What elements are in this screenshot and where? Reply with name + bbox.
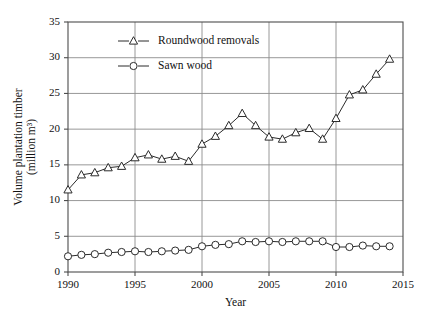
data-point-marker bbox=[305, 124, 313, 131]
data-point-marker bbox=[198, 243, 205, 250]
data-point-marker bbox=[332, 243, 339, 250]
data-point-marker bbox=[346, 243, 353, 250]
data-point-marker bbox=[373, 243, 380, 250]
line-chart-canvas: 05101520253035 199019952000200520102015 … bbox=[0, 0, 431, 320]
data-point-marker bbox=[144, 151, 152, 158]
x-tick-label: 2000 bbox=[191, 278, 214, 290]
data-point-marker bbox=[172, 247, 179, 254]
y-tick-label: 25 bbox=[49, 86, 61, 98]
data-point-marker bbox=[185, 246, 192, 253]
x-axis-title: Year bbox=[225, 296, 246, 308]
y-tick-label: 10 bbox=[49, 193, 61, 205]
y-tick-label: 20 bbox=[49, 122, 61, 134]
data-point-marker bbox=[239, 238, 246, 245]
data-point-marker bbox=[225, 241, 232, 248]
x-tick-label: 2010 bbox=[325, 278, 348, 290]
data-point-marker bbox=[359, 242, 366, 249]
y-tick-label: 0 bbox=[55, 265, 61, 277]
data-point-marker bbox=[252, 238, 259, 245]
plot-border bbox=[68, 22, 403, 272]
data-point-marker bbox=[145, 248, 152, 255]
legend-marker bbox=[130, 62, 137, 69]
data-point-marker bbox=[131, 248, 138, 255]
legend-label: Roundwood removals bbox=[158, 34, 260, 46]
y-tick-label: 35 bbox=[49, 15, 61, 27]
data-point-marker bbox=[171, 152, 179, 159]
y-axis-title-line1: Volume plantation timber bbox=[12, 88, 25, 205]
data-point-marker bbox=[158, 248, 165, 255]
y-tick-label: 15 bbox=[49, 157, 61, 169]
data-point-marker bbox=[332, 114, 340, 121]
legend-label: Sawn wood bbox=[158, 59, 212, 71]
y-axis-title-line2: (million m³) bbox=[25, 119, 38, 175]
data-series-group bbox=[64, 55, 394, 260]
data-point-marker bbox=[386, 55, 394, 62]
chart-legend: Roundwood removalsSawn wood bbox=[118, 34, 260, 71]
data-point-marker bbox=[105, 249, 112, 256]
data-point-marker bbox=[211, 132, 219, 139]
tick-marks-group bbox=[64, 22, 403, 276]
data-point-marker bbox=[265, 238, 272, 245]
x-tick-label: 1990 bbox=[57, 278, 80, 290]
series-1 bbox=[64, 55, 394, 193]
y-tick-label: 5 bbox=[55, 229, 61, 241]
x-axis-tick-labels: 199019952000200520102015 bbox=[57, 278, 415, 290]
data-point-marker bbox=[265, 133, 273, 140]
data-point-marker bbox=[118, 162, 126, 169]
x-tick-label: 2005 bbox=[258, 278, 281, 290]
data-point-marker bbox=[212, 241, 219, 248]
data-point-marker bbox=[198, 140, 206, 147]
legend-marker bbox=[129, 37, 137, 44]
x-tick-label: 2015 bbox=[392, 278, 415, 290]
data-point-marker bbox=[319, 238, 326, 245]
series-2 bbox=[64, 238, 393, 260]
data-point-marker bbox=[386, 243, 393, 250]
legend-item-1: Roundwood removals bbox=[118, 34, 260, 46]
y-axis-tick-labels: 05101520253035 bbox=[49, 15, 61, 277]
y-tick-label: 30 bbox=[49, 50, 61, 62]
axis-titles-group: YearVolume plantation timber(million m³) bbox=[12, 88, 246, 308]
data-point-marker bbox=[292, 238, 299, 245]
data-point-marker bbox=[279, 238, 286, 245]
data-point-marker bbox=[91, 251, 98, 258]
data-point-marker bbox=[319, 135, 327, 142]
legend-item-2: Sawn wood bbox=[118, 59, 212, 71]
data-point-marker bbox=[238, 109, 246, 116]
data-point-marker bbox=[118, 248, 125, 255]
data-point-marker bbox=[64, 253, 71, 260]
gridlines-group bbox=[68, 22, 403, 272]
plot-frame bbox=[68, 22, 403, 272]
x-tick-label: 1995 bbox=[124, 278, 147, 290]
chart-figure: 05101520253035 199019952000200520102015 … bbox=[0, 0, 431, 320]
data-point-marker bbox=[306, 238, 313, 245]
data-point-marker bbox=[78, 251, 85, 258]
